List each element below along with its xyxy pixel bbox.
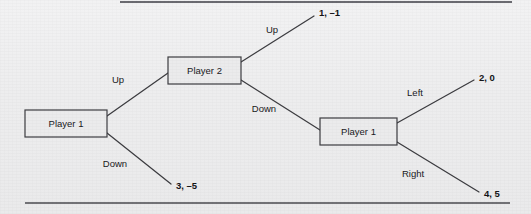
node-label-player1-second: Player 1 xyxy=(341,126,376,137)
action-label-player2-up: Up xyxy=(266,24,278,35)
action-labels: Up Down Up Down Left Right xyxy=(103,24,425,179)
payoff-right: 4, 5 xyxy=(484,188,501,199)
node-label-root: Player 1 xyxy=(49,118,84,129)
action-label-root-down: Down xyxy=(103,158,127,169)
action-label-player1b-left: Left xyxy=(407,87,423,98)
tree-edges xyxy=(107,16,479,192)
payoff-up-up: 1, –1 xyxy=(319,7,341,18)
action-label-root-up: Up xyxy=(112,74,124,85)
tree-nodes: Player 1 Player 2 Player 1 xyxy=(25,57,397,145)
payoff-labels: 1, –1 3, –5 2, 0 4, 5 xyxy=(176,7,501,199)
payoff-down: 3, –5 xyxy=(176,180,198,191)
action-label-player2-down: Down xyxy=(252,103,276,114)
node-label-player2: Player 2 xyxy=(187,65,222,76)
action-label-player1b-right: Right xyxy=(402,168,425,179)
payoff-left: 2, 0 xyxy=(479,72,495,83)
game-tree-canvas: Player 1 Player 2 Player 1 Up Down Up Do… xyxy=(0,0,531,214)
game-tree-figure: Player 1 Player 2 Player 1 Up Down Up Do… xyxy=(0,0,531,214)
